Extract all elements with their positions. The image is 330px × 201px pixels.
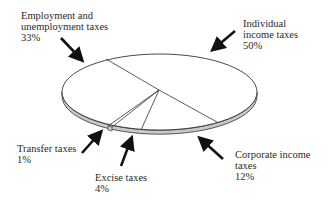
label-pct: 50% bbox=[243, 40, 298, 51]
label-pct: 4% bbox=[95, 183, 147, 194]
label-line: income taxes bbox=[243, 29, 298, 40]
arrow-excise bbox=[121, 142, 130, 166]
label-line: Excise taxes bbox=[95, 172, 147, 183]
label-corporate: Corporate income taxes 12% bbox=[235, 149, 311, 182]
label-transfer: Transfer taxes 1% bbox=[17, 143, 76, 165]
label-pct: 1% bbox=[17, 154, 76, 165]
label-line: taxes bbox=[235, 160, 311, 171]
label-individual: Individual income taxes 50% bbox=[243, 18, 298, 51]
label-employment: Employment and unemployment taxes 33% bbox=[21, 10, 108, 43]
arrow-corporate bbox=[203, 141, 223, 159]
slice-transfer-rim bbox=[108, 126, 112, 131]
label-line: Corporate income bbox=[235, 149, 311, 160]
label-excise: Excise taxes 4% bbox=[95, 172, 147, 194]
label-line: Individual bbox=[243, 18, 298, 29]
label-line: Employment and bbox=[21, 10, 108, 21]
arrow-transfer bbox=[82, 135, 98, 153]
label-line: unemployment taxes bbox=[21, 21, 108, 32]
arrow-individual bbox=[216, 31, 235, 47]
pie-face bbox=[62, 54, 257, 130]
label-line: Transfer taxes bbox=[17, 143, 76, 154]
label-pct: 12% bbox=[235, 171, 311, 182]
label-pct: 33% bbox=[21, 32, 108, 43]
